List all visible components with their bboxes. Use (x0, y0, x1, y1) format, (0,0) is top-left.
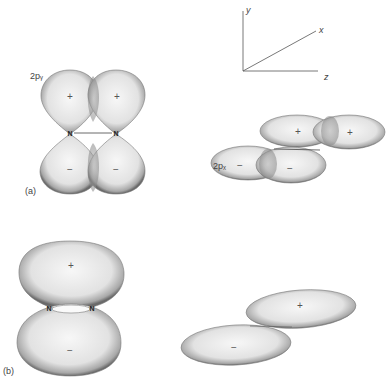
sign-minus: − (113, 165, 119, 175)
atom-n-left: N (67, 130, 72, 137)
sign-minus: − (287, 164, 293, 174)
orbital-diagram (0, 0, 388, 384)
atom-n-right: N (89, 305, 94, 312)
x-axis (243, 31, 316, 71)
panel-a-left-orbitals (40, 70, 145, 194)
x-axis-label: x (319, 26, 324, 35)
lobe-bottom (17, 307, 121, 376)
sign-plus: + (347, 128, 353, 138)
sign-plus: + (67, 92, 73, 102)
lobe-top (19, 241, 124, 307)
sign-plus: + (297, 301, 303, 311)
orbital-label-2px: 2pₓ (213, 162, 226, 171)
sign-minus: − (67, 165, 73, 175)
sign-minus: − (237, 161, 243, 171)
atom-n-left: N (46, 305, 51, 312)
axes (243, 11, 318, 71)
panel-b-label: (b) (3, 367, 14, 376)
sign-plus: + (68, 261, 74, 271)
sign-plus: + (295, 127, 301, 137)
z-axis-label: z (324, 73, 329, 82)
panel-b-right-orbitals (180, 286, 357, 368)
sign-minus: − (231, 343, 237, 353)
sign-minus: − (67, 346, 73, 356)
y-axis-label: y (246, 6, 251, 15)
atom-n-right: N (113, 130, 118, 137)
sign-plus: + (114, 92, 120, 102)
orbital-label-2py: 2pᵧ (30, 72, 43, 81)
panel-a-label: (a) (25, 187, 36, 196)
